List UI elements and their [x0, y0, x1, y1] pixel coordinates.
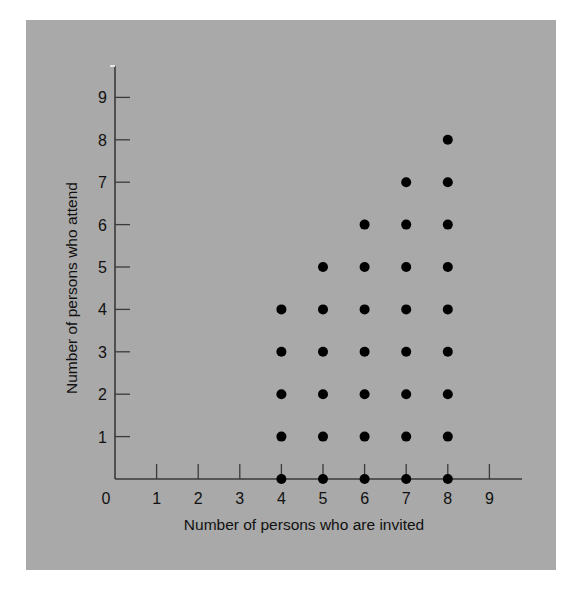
x-tick-label: 5: [319, 490, 328, 507]
ticks: 0123456789123456789: [98, 89, 494, 507]
data-point: [443, 347, 453, 357]
data-point: [401, 220, 411, 230]
x-tick-label: 8: [443, 490, 452, 507]
data-point: [318, 347, 328, 357]
data-point: [443, 432, 453, 442]
data-point: [360, 304, 370, 314]
data-point: [443, 304, 453, 314]
data-point: [401, 262, 411, 272]
data-point: [443, 262, 453, 272]
y-tick-label: 6: [98, 217, 107, 234]
y-tick-label: 9: [98, 89, 107, 106]
x-tick-label: 3: [235, 490, 244, 507]
data-point: [443, 474, 453, 484]
y-tick-label: 3: [98, 344, 107, 361]
y-tick-label: 4: [98, 301, 107, 318]
data-point: [401, 389, 411, 399]
x-tick-label: 1: [152, 490, 161, 507]
data-point: [276, 474, 286, 484]
scatter-chart: 0123456789123456789 Number of persons wh…: [0, 0, 579, 595]
x-tick-label: 2: [194, 490, 203, 507]
data-point: [318, 304, 328, 314]
data-point: [401, 432, 411, 442]
data-point: [276, 304, 286, 314]
x-axis-label: Number of persons who are invited: [184, 516, 424, 533]
data-points: [276, 135, 452, 484]
x-tick-label: 0: [102, 490, 111, 507]
data-point: [276, 347, 286, 357]
data-point: [360, 389, 370, 399]
y-tick-label: 1: [98, 429, 107, 446]
data-point: [318, 262, 328, 272]
data-point: [401, 474, 411, 484]
data-point: [318, 389, 328, 399]
x-tick-label: 4: [277, 490, 286, 507]
data-point: [443, 135, 453, 145]
x-tick-label: 9: [485, 490, 494, 507]
data-point: [360, 220, 370, 230]
y-tick-label: 8: [98, 132, 107, 149]
data-point: [401, 304, 411, 314]
data-point: [443, 220, 453, 230]
axes: [110, 66, 522, 479]
data-point: [318, 474, 328, 484]
y-tick-label: 7: [98, 174, 107, 191]
data-point: [360, 474, 370, 484]
data-point: [401, 177, 411, 187]
data-point: [443, 177, 453, 187]
data-point: [276, 389, 286, 399]
data-point: [443, 389, 453, 399]
x-tick-label: 7: [402, 490, 411, 507]
data-point: [401, 347, 411, 357]
y-axis-label: Number of persons who attend: [63, 182, 80, 394]
data-point: [318, 432, 328, 442]
y-tick-label: 2: [98, 386, 107, 403]
data-point: [360, 347, 370, 357]
data-point: [276, 432, 286, 442]
x-tick-label: 6: [360, 490, 369, 507]
y-tick-label: 5: [98, 259, 107, 276]
data-point: [360, 262, 370, 272]
data-point: [360, 432, 370, 442]
